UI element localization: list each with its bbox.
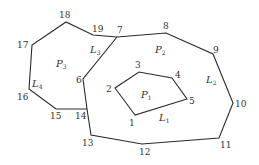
vertex-label-8: 8 [163,21,169,31]
vertex-label-18: 18 [59,10,71,20]
vertex-label-12: 12 [139,147,150,157]
region-label-p2: P2 [154,44,166,56]
vertex-label-2: 2 [106,84,112,94]
vertex-label-19: 19 [92,24,104,34]
region-label-p1: P1 [140,89,152,101]
curve-label-l2: L2 [205,74,217,86]
left-polygon-L4 [29,22,117,109]
divider-L3 [83,37,117,109]
vertex-label-4: 4 [175,70,181,80]
vertex-label-13: 13 [82,138,94,148]
polygon-diagram: 12345678910111213141516171819 P1P2P3L1L2… [0,0,259,165]
vertex-label-6: 6 [76,75,82,85]
vertex-label-11: 11 [220,140,231,150]
vertex-label-16: 16 [17,92,29,102]
vertex-label-17: 17 [17,40,29,50]
vertex-label-9: 9 [213,45,219,55]
diagram-svg: 12345678910111213141516171819 P1P2P3L1L2… [0,0,259,165]
vertex-label-7: 7 [117,25,123,35]
region-label-p3: P3 [55,58,67,70]
curve-label-l3: L3 [89,44,101,56]
vertex-label-1: 1 [129,118,135,128]
curve-label-l4: L4 [31,78,43,90]
vertex-label-14: 14 [75,111,87,121]
vertex-label-5: 5 [189,96,195,106]
vertex-label-15: 15 [50,111,62,121]
vertex-label-3: 3 [135,60,141,70]
vertex-label-10: 10 [235,99,247,109]
curve-label-l1: L1 [158,112,169,124]
